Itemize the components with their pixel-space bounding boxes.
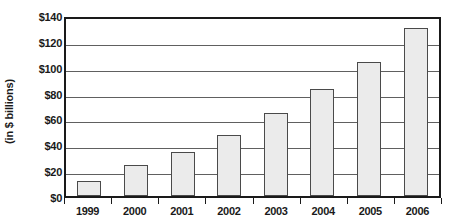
bar-slot [66,19,113,196]
x-axis: 19992000200120022003200420052006 [64,198,441,223]
x-axis-tick-labels: 19992000200120022003200420052006 [64,205,441,217]
x-axis-tick [347,198,348,204]
x-axis-tick-label: 2000 [111,205,158,217]
bar-slot [206,19,253,196]
x-axis-tick-label: 2004 [300,205,347,217]
bar-2006 [404,28,428,196]
x-axis-tick [394,198,395,204]
x-axis-tick [64,198,65,204]
bars-container [66,19,439,196]
y-axis-tick-label: $60 [18,115,62,126]
bar-2002 [217,135,241,196]
y-axis-tick-labels: $0$20$40$60$80$100$120$140 [18,0,62,223]
x-axis-tick-label: 1999 [64,205,111,217]
y-axis-tick-label: $140 [18,12,62,23]
bar-slot [159,19,206,196]
bar-slot [113,19,160,196]
bar-2000 [124,165,148,196]
plot-area [64,17,441,198]
bar-chart: (in $ billions) $0$20$40$60$80$100$120$1… [0,0,452,223]
bar-2005 [357,62,381,196]
x-axis-tick [300,198,301,204]
x-axis-tick [253,198,254,204]
x-axis-tick-label: 2002 [205,205,252,217]
y-axis-tick-label: $120 [18,37,62,48]
bar-2004 [310,89,334,196]
y-axis-tick-label: $40 [18,141,62,152]
y-axis-tick-label: $80 [18,89,62,100]
bar-2001 [171,152,195,196]
x-axis-tick-label: 2003 [253,205,300,217]
bar-slot [299,19,346,196]
bar-1999 [77,181,101,197]
x-axis-tick [205,198,206,204]
bar-slot [253,19,300,196]
y-axis-tick-label: $0 [18,193,62,204]
x-axis-tick [111,198,112,204]
x-axis-tick-label: 2001 [158,205,205,217]
x-axis-tick [441,198,442,204]
bar-slot [346,19,393,196]
x-axis-tick-label: 2005 [347,205,394,217]
y-axis-tick-label: $100 [18,63,62,74]
y-axis-tick-label: $20 [18,167,62,178]
bar-2003 [264,113,288,196]
x-axis-tick [158,198,159,204]
bar-slot [392,19,439,196]
y-axis-title: (in $ billions) [0,0,18,223]
x-axis-tick-label: 2006 [394,205,441,217]
